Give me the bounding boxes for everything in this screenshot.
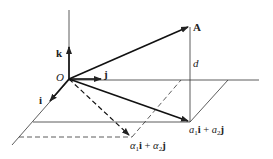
label-unit-k: k — [56, 47, 63, 59]
label-distance-d: d — [193, 57, 199, 69]
label-vector-A: A — [193, 21, 201, 33]
vector-diagram: A d O k j i a1i + a2j α1i + α2j — [0, 0, 273, 159]
label-origin: O — [56, 71, 64, 83]
vector-A — [69, 27, 188, 79]
label-projection-alpha: α1i + α2j — [130, 140, 166, 153]
vector-projection-alpha — [69, 79, 129, 135]
plane-right-edge — [190, 80, 228, 122]
label-unit-j: j — [103, 68, 108, 80]
label-projection-a: a1i + a2j — [189, 124, 224, 137]
vector-projection-a — [69, 79, 188, 121]
dashed-right-edge — [132, 80, 181, 137]
label-unit-i: i — [39, 94, 42, 106]
